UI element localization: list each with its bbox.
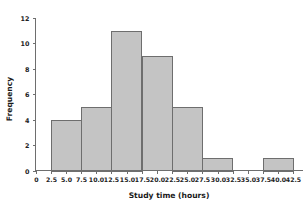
x-tick-label: 35.0 xyxy=(241,176,257,183)
x-tick-label: 2.5 xyxy=(46,176,57,183)
x-tick-label: 40.0 xyxy=(271,176,287,183)
histogram-bar xyxy=(264,159,294,172)
x-tick-label: 32.5 xyxy=(226,176,241,183)
x-tick-label: 20.0 xyxy=(150,176,166,183)
x-tick-label: 27.5 xyxy=(195,176,210,183)
histogram-bar xyxy=(143,57,173,171)
x-tick-label: 0 xyxy=(34,176,39,183)
y-tick-label: 8 xyxy=(25,66,30,74)
y-tick-label: 2 xyxy=(25,142,29,150)
x-tick-label: 22.5 xyxy=(165,176,180,183)
x-tick-label: 42.5 xyxy=(286,176,301,183)
y-tick-label: 4 xyxy=(25,117,30,125)
x-tick-label: 5.0 xyxy=(61,176,73,183)
y-tick-label: 12 xyxy=(21,15,30,23)
x-tick-label: 7.5 xyxy=(76,176,87,183)
y-tick-label: 10 xyxy=(21,40,30,48)
histogram-bar xyxy=(52,121,82,172)
x-tick-label: 10.0 xyxy=(89,176,105,183)
y-tick-label: 0 xyxy=(25,168,30,176)
x-tick-label: 37.5 xyxy=(256,176,271,183)
x-axis-title: Study time (hours) xyxy=(129,191,210,200)
y-axis-title: Frequency xyxy=(5,77,14,121)
histogram-bar xyxy=(82,108,112,172)
histogram-bar xyxy=(173,108,203,172)
x-tick-label: 12.5 xyxy=(104,176,119,183)
histogram-bar xyxy=(203,159,233,172)
x-tick-label: 30.0 xyxy=(211,176,227,183)
histogram-plot: 02.55.07.510.012.515.017.520.022.525.027… xyxy=(0,0,308,203)
histogram-bar xyxy=(112,32,142,172)
x-tick-label: 17.5 xyxy=(135,176,150,183)
y-tick-label: 6 xyxy=(25,91,30,99)
x-tick-label: 25.0 xyxy=(180,176,196,183)
histogram-figure: 02.55.07.510.012.515.017.520.022.525.027… xyxy=(0,0,308,203)
x-tick-label: 15.0 xyxy=(120,176,136,183)
